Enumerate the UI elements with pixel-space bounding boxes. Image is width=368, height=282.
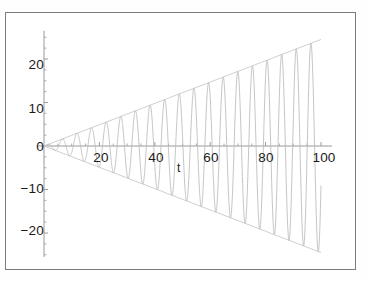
- plot-canvas: [0, 0, 368, 282]
- x-tick-label-20: 20: [85, 150, 117, 165]
- x-tick-label-60: 60: [195, 150, 227, 165]
- figure-root: 20 10 0 −10 −20 20 40 60 80 100 t: [0, 0, 368, 282]
- x-tick-label-40: 40: [140, 150, 172, 165]
- y-tick-label-minus-20: −20: [8, 223, 44, 238]
- x-tick-label-100: 100: [305, 150, 343, 165]
- y-tick-label-20: 20: [14, 57, 44, 72]
- x-axis-label: t: [177, 161, 180, 175]
- y-tick-label-minus-10: −10: [8, 181, 44, 196]
- oscillation-curve: [44, 43, 321, 251]
- y-tick-label-0: 0: [14, 139, 44, 154]
- x-tick-label-80: 80: [250, 150, 282, 165]
- y-tick-label-10: 10: [14, 101, 44, 116]
